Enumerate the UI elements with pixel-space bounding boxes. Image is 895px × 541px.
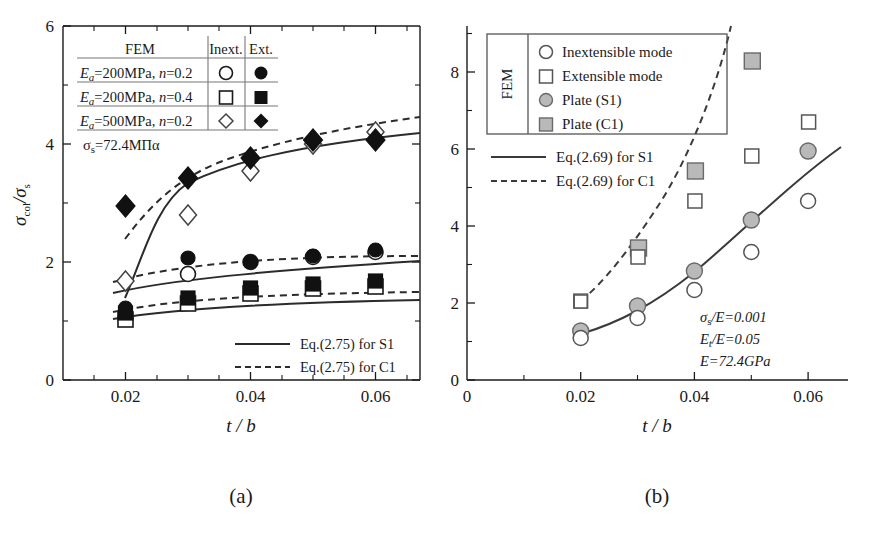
annotation-b-1-rest: /E=0.05 (711, 331, 760, 347)
svg-text:FEM: FEM (499, 69, 515, 100)
subcaption-a: (a) (229, 484, 252, 508)
legend-a-marker-open-square (220, 91, 233, 104)
yaxis-sub-s: s (20, 184, 32, 188)
annotation-b-1-sym: E (699, 331, 709, 347)
xticks-b (581, 372, 808, 380)
legend-a-marker-filled-square (255, 91, 268, 104)
legend-a-marker-filled-diamond (254, 114, 269, 129)
legend-b-marker-open-square (540, 70, 553, 83)
yaxis-title-a: σcol/σs (9, 184, 32, 226)
legend-a-row-0-n: n (159, 65, 166, 81)
linelegend-a-dashed-label: Eq.(2.75) for C1 (300, 359, 396, 376)
xminor-b (524, 375, 751, 380)
legend-a-marker-open-diamond (219, 114, 233, 128)
legend-b-item-3-label: Plate (C1) (562, 116, 623, 133)
legend-b-item-0-label: Inextensible mode (562, 44, 673, 60)
panel-a-svg: 0.02 0.04 0.06 0 2 4 6 t / b σcol/σs (0, 0, 447, 541)
legend-b-marker-open-circle (540, 46, 553, 59)
curve-a-s1-top (125, 133, 420, 298)
annotation-b-2-sym: E (699, 353, 709, 369)
annotation-b-0: σs/E=0.001 (700, 309, 767, 327)
subcaption-b: (b) (645, 484, 670, 508)
yaxis-sub-col: col (20, 203, 32, 216)
yticks-b (467, 72, 475, 380)
xtick-label-b-1: 0.02 (566, 387, 596, 406)
legend-a-row-2-rest: =500MPa, (94, 113, 159, 129)
ytick-label-b-1: 2 (451, 294, 460, 313)
legend-a-row-0-label: Ea=200MPa, n=0.2 (79, 65, 193, 83)
yminor-b (467, 34, 472, 342)
linelegend-b-solid-label: Eq.(2.69) for S1 (556, 149, 654, 166)
legend-a-row-0-rest: =200MPa, (94, 65, 159, 81)
panel-b-svg: 0 0.02 0.04 0.06 0 2 4 6 8 t / b σcol/σs (448, 0, 895, 541)
legend-a-row-1-label: Ea=200MPa, n=0.4 (79, 89, 193, 107)
annotation-b-2: E=72.4GPa (699, 353, 771, 369)
legend-b-marker-gray-square (540, 118, 553, 131)
linelegend-b-dashed-label: Eq.(2.69) for C1 (556, 173, 655, 190)
xtick-label-b-0: 0 (463, 387, 472, 406)
legend-a-row-1-E: E (79, 89, 89, 105)
annotation-b-1: Et/E=0.05 (699, 331, 760, 349)
legend-b-side-label: FEM (499, 69, 515, 100)
legend-a-marker-filled-circle (255, 67, 268, 80)
ytick-label-a-1: 2 (46, 253, 55, 272)
legend-a-row-2-n: n (159, 113, 166, 129)
legend-a-row-0-nval: =0.2 (166, 65, 192, 81)
legend-a-row-2-E: E (79, 113, 89, 129)
legend-b-marker-gray-circle (540, 94, 553, 107)
legend-a-row-0-E: E (79, 65, 89, 81)
ytick-label-b-0: 0 (451, 371, 460, 390)
legend-a-row-1-rest: =200MPa, (94, 89, 159, 105)
ytick-label-a-3: 6 (46, 17, 55, 36)
xtick-label-a-2: 0.06 (361, 387, 391, 406)
xtick-label-a-0: 0.02 (111, 387, 141, 406)
ytick-label-a-0: 0 (46, 371, 55, 390)
legend-a-header-inext: Inext. (209, 41, 242, 57)
ytick-label-b-4: 8 (451, 63, 460, 82)
legend-a-row-2-nval: =0.2 (166, 113, 192, 129)
legend-a-header-ext: Ext. (249, 41, 273, 57)
legend-a-row-1-nval: =0.4 (166, 89, 193, 105)
ytick-label-b-2: 4 (451, 217, 460, 236)
svg-text:σcol/σs: σcol/σs (9, 184, 32, 226)
xtick-label-a-1: 0.04 (236, 387, 266, 406)
panel-b: 0 0.02 0.04 0.06 0 2 4 6 8 t / b σcol/σs (448, 0, 895, 541)
xtick-label-b-2: 0.04 (680, 387, 710, 406)
legend-a-footnote-sigma: σ (83, 137, 91, 153)
ytick-label-a-2: 4 (46, 135, 55, 154)
xtick-label-b-3: 0.06 (793, 387, 823, 406)
annotation-b-0-rest: /E=0.001 (710, 309, 766, 325)
figure-container: 0.02 0.04 0.06 0 2 4 6 t / b σcol/σs (0, 0, 895, 541)
legend-b-item-2-label: Plate (S1) (562, 92, 622, 109)
legend-b-item-1-label: Extensible mode (562, 68, 663, 84)
curve-a-s1-low (113, 300, 420, 319)
annotation-b-2-rest: =72.4GPa (709, 353, 771, 369)
legend-a-footnote-rest: =72.4MПα (95, 137, 160, 153)
legend-a-row-1-n: n (159, 89, 166, 105)
ytick-label-b-3: 6 (451, 140, 460, 159)
legend-a-row-2-label: Ea=500MPa, n=0.2 (79, 113, 193, 131)
legend-a-header-fem: FEM (125, 41, 155, 57)
linelegend-a-solid-label: Eq.(2.75) for S1 (300, 336, 394, 353)
legend-a-footnote: σs=72.4MПα (83, 137, 160, 155)
panel-a: 0.02 0.04 0.06 0 2 4 6 t / b σcol/σs (0, 0, 447, 541)
legend-a-marker-open-circle (220, 67, 233, 80)
xaxis-title-a: t / b (226, 415, 256, 436)
xaxis-title-b: t / b (642, 415, 672, 436)
